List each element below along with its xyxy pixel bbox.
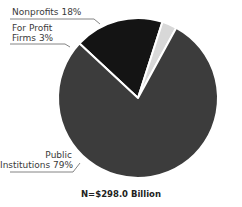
- label-nonprofits: Nonprofits 18%: [12, 7, 81, 17]
- leader-line-forprofit: [10, 44, 70, 47]
- label-public-line1: Public: [0, 150, 72, 160]
- label-public-line2: Institutions 79%: [0, 160, 72, 170]
- total-note: N=$298.0 Billion: [0, 189, 242, 199]
- label-forprofit-line1: For Profit: [12, 23, 52, 33]
- label-forprofit-line2: Firms 3%: [12, 33, 53, 43]
- pie-slices: [58, 18, 218, 178]
